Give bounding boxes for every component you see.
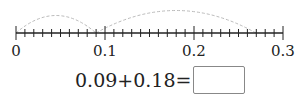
svg-text:0.2: 0.2 — [182, 42, 206, 60]
equation: 0.09+0.18= — [75, 66, 245, 94]
svg-text:0: 0 — [11, 42, 21, 60]
number-line: 00.10.20.3 — [0, 0, 301, 60]
answer-box[interactable] — [193, 66, 245, 94]
svg-text:0.3: 0.3 — [271, 42, 295, 60]
equation-text: 0.09+0.18= — [75, 69, 191, 91]
svg-text:0.1: 0.1 — [93, 42, 117, 60]
jump-arc-1 — [16, 16, 96, 34]
